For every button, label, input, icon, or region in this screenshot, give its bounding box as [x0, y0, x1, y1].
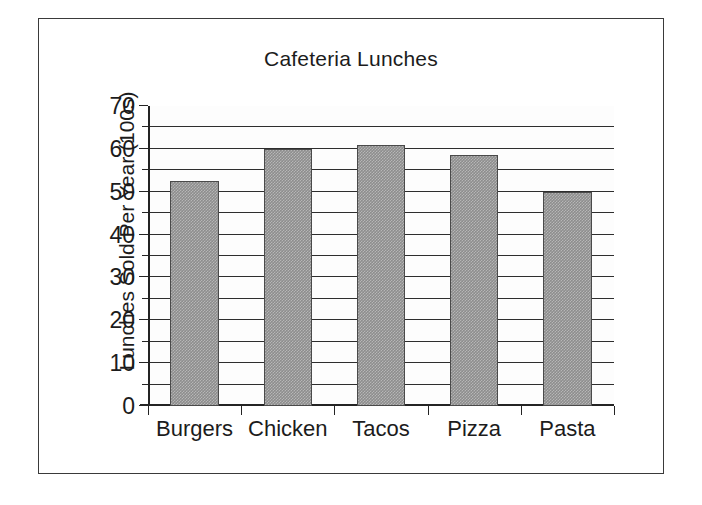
y-tick-mark — [139, 405, 148, 406]
bar-tacos — [357, 145, 405, 406]
x-tick-label: Pizza — [447, 416, 501, 442]
y-tick-label: 70 — [109, 93, 135, 120]
x-tick-mark — [521, 406, 522, 415]
y-tick-label: 20 — [109, 307, 135, 334]
y-tick-mark — [139, 319, 148, 320]
x-tick-mark — [148, 406, 149, 415]
y-axis-line — [148, 106, 150, 406]
y-tick-label: 40 — [109, 221, 135, 248]
chart-title: Cafeteria Lunches — [39, 47, 663, 71]
x-tick-label: Burgers — [156, 416, 233, 442]
plot-area: 010203040506070 BurgersChickenTacosPizza… — [148, 106, 614, 406]
x-tick-mark — [428, 406, 429, 415]
y-tick-mark-minor — [142, 298, 148, 299]
y-tick-label: 60 — [109, 135, 135, 162]
y-tick-mark-minor — [142, 126, 148, 127]
y-tick-mark — [139, 105, 148, 106]
y-tick-label: 0 — [122, 393, 135, 420]
bar-pasta — [543, 192, 591, 406]
y-tick-label: 30 — [109, 264, 135, 291]
y-tick-label: 10 — [109, 350, 135, 377]
x-tick-label: Pasta — [539, 416, 595, 442]
y-tick-mark-minor — [142, 169, 148, 170]
x-tick-mark — [241, 406, 242, 415]
y-tick-label: 50 — [109, 178, 135, 205]
y-tick-mark — [139, 276, 148, 277]
gridline — [148, 126, 614, 127]
y-tick-mark-minor — [142, 341, 148, 342]
bar-pizza — [450, 155, 498, 406]
y-tick-mark — [139, 191, 148, 192]
y-tick-mark — [139, 234, 148, 235]
bar-chicken — [264, 149, 312, 406]
bar-burgers — [170, 181, 218, 406]
x-tick-label: Tacos — [352, 416, 409, 442]
chart-figure-frame: Cafeteria Lunches Lunches Sold Per Year … — [38, 18, 664, 474]
y-tick-mark-minor — [142, 255, 148, 256]
y-tick-mark-minor — [142, 212, 148, 213]
y-tick-mark — [139, 362, 148, 363]
x-tick-label: Chicken — [248, 416, 327, 442]
x-tick-mark — [334, 406, 335, 415]
y-tick-mark-minor — [142, 384, 148, 385]
x-tick-mark — [614, 406, 615, 415]
y-tick-mark — [139, 148, 148, 149]
